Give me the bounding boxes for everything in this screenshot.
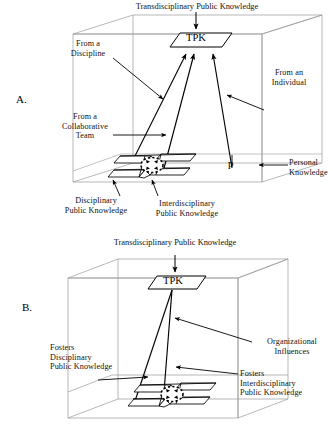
label-from-individual: From an Individual [258, 68, 320, 87]
figure-root: Transdisciplinary Public Knowledge A. TP… [0, 0, 333, 439]
pointer-fosters-interdisciplinary [176, 367, 238, 374]
pointer-disciplinary-public-knowledge [113, 180, 120, 196]
panel-b-title: Transdisciplinary Public Knowledge [100, 238, 250, 247]
label-organizational-influences: Organizational Influences [252, 337, 332, 356]
panel-a-floor-guides [73, 154, 322, 171]
pointer-interdisciplinary-public-knowledge [152, 180, 158, 196]
pointer-from-discipline [113, 58, 163, 99]
cube-a-back-bottom-edges [73, 163, 322, 182]
label-personal-knowledge: Personal Knowledge [289, 158, 333, 177]
label-disciplinary-public-knowledge: Disciplinary Public Knowledge [57, 196, 135, 215]
panel-b-letter: B. [22, 301, 32, 313]
cube-a-right-face [262, 15, 322, 182]
interdisciplinary-hub-a [141, 158, 163, 173]
interdisciplinary-hub-b [161, 387, 183, 402]
pointer-organizational-influences [175, 318, 252, 342]
label-from-collaborative-team: From a Collaborative Team [54, 112, 116, 141]
pointer-from-individual [227, 95, 264, 110]
cube-a-floor-guide [73, 154, 322, 171]
flow-arrow-individual [213, 54, 232, 168]
label-from-discipline: From a Discipline [59, 39, 117, 58]
label-interdisciplinary-public-knowledge: Interdisciplinary Public Knowledge [145, 199, 229, 218]
panel-a-title: Transdisciplinary Public Knowledge [122, 2, 272, 11]
flow-arrow-discipline [133, 54, 186, 160]
label-fosters-interdisciplinary: Fosters Interdisciplinary Public Knowled… [240, 369, 330, 398]
tpk-label-a: TPK [176, 32, 216, 43]
label-fosters-disciplinary: Fosters Disciplinary Public Knowledge [50, 343, 132, 372]
panel-a-letter: A. [16, 93, 27, 105]
personal-knowledge-symbol: p [228, 157, 234, 169]
flow-arrow-fosters-interdisciplinary [164, 290, 172, 392]
tpk-label-b: TPK [153, 275, 193, 286]
